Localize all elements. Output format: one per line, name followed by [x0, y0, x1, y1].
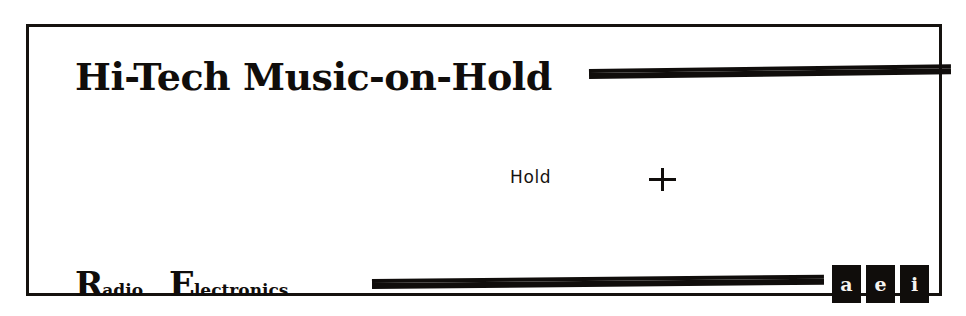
brand-dropcap-r: R: [75, 267, 102, 301]
brand-word-electronics: E lectronics: [169, 267, 288, 307]
panel-frame: Hi-Tech Music-on-Hold Hold R adio E lect…: [26, 24, 942, 296]
page-title: Hi-Tech Music-on-Hold: [75, 54, 552, 100]
inverted-glyph-tile-2: e: [866, 265, 895, 303]
brand-rest-electronics: lectronics: [194, 273, 289, 307]
plus-vertical-stroke: [661, 168, 664, 191]
plus-crosshair-icon: [649, 168, 676, 191]
brand-dropcap-e: E: [169, 267, 194, 301]
brand-word-radio: R adio: [75, 267, 143, 307]
hold-label: Hold: [510, 167, 551, 187]
scanned-figure: Hi-Tech Music-on-Hold Hold R adio E lect…: [0, 0, 966, 316]
inverted-glyph-tile-3: i: [900, 265, 929, 303]
rule-top: [589, 64, 951, 79]
brand-rest-radio: adio: [102, 273, 143, 307]
rule-bottom: [372, 275, 824, 289]
brand-lockup: R adio E lectronics: [75, 267, 288, 307]
glyph-tile-group: a e i: [832, 265, 929, 303]
inverted-glyph-tile-1: a: [832, 265, 861, 303]
